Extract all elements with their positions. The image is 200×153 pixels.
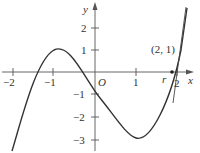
origin-label: O xyxy=(98,76,106,88)
y-tick-label: −3 xyxy=(73,134,85,146)
newton-method-graph: y x O −2 −1 1 2 2 1 −1 −2 −3 (2, 1) r xyxy=(0,0,200,153)
x-tick-label: 2 xyxy=(174,77,180,89)
root-point xyxy=(170,70,174,74)
x-tick-label: −2 xyxy=(3,76,15,88)
y-axis-label: y xyxy=(82,3,88,15)
root-label: r xyxy=(162,73,167,85)
x-axis-label: x xyxy=(187,74,193,86)
x-tick-label: −1 xyxy=(44,76,56,88)
point-label: (2, 1) xyxy=(151,43,175,56)
y-tick-label: −2 xyxy=(73,111,85,123)
y-axis-arrow-icon xyxy=(93,2,98,10)
y-tick-label: −1 xyxy=(73,88,85,100)
x-tick-label: 1 xyxy=(133,76,139,88)
y-tick-label: 2 xyxy=(81,22,87,34)
y-tick-label: 1 xyxy=(81,44,87,56)
